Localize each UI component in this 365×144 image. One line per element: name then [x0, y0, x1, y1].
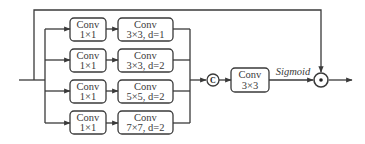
- dilated-conv-4-line2: 7×7, d=2: [126, 122, 164, 133]
- conv1x1-3-line2: 1×1: [80, 91, 96, 102]
- dilated-conv-3-line2: 5×5, d=2: [126, 91, 164, 102]
- diagram-canvas: Conv 1×1 Conv 1×1 Conv 1×1 Conv 1×1 Conv…: [0, 0, 365, 144]
- dilated-conv-2-line2: 3×3, d=2: [126, 60, 164, 71]
- sigmoid-label: Sigmoid: [276, 66, 311, 77]
- fuse-conv-line2: 3×3: [242, 80, 258, 91]
- conv1x1-2-line2: 1×1: [80, 60, 96, 71]
- fuse-conv-line1: Conv: [239, 69, 263, 80]
- multiply-dot-icon: [319, 78, 323, 82]
- dilated-conv-1-line2: 3×3, d=1: [126, 29, 164, 40]
- conv1x1-1-line2: 1×1: [80, 29, 96, 40]
- conv1x1-4-line2: 1×1: [80, 122, 96, 133]
- concat-symbol: C: [210, 76, 216, 85]
- diagram-svg: Conv 1×1 Conv 1×1 Conv 1×1 Conv 1×1 Conv…: [0, 0, 365, 144]
